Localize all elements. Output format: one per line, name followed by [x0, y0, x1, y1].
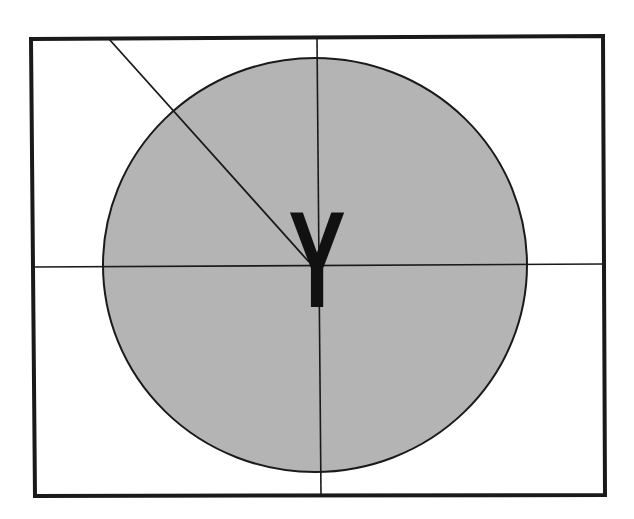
diagram-canvas: Y [0, 0, 634, 519]
center-label: Y [288, 182, 345, 336]
